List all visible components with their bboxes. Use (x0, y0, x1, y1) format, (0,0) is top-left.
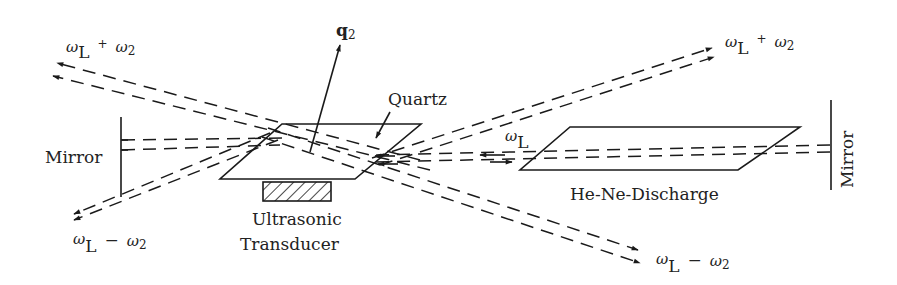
beam-upper-left (53, 63, 430, 170)
beam-label-upper-left: ωL+ω2 (66, 37, 135, 62)
transducer-label-line1: Ultrasonic (252, 209, 342, 229)
beam-label-laser: ωL (505, 127, 529, 152)
wavevector-arrow (310, 45, 340, 152)
quartz-label: Quartz (388, 89, 447, 109)
beam-label-upper-right: ωL+ω2 (725, 32, 794, 58)
beam-lower-left (74, 133, 278, 220)
quartz-pointer-arrow (376, 112, 390, 138)
transducer-label-line2: Transducer (240, 234, 340, 254)
mirror-left-label: Mirror (45, 147, 103, 167)
mirror-left (121, 117, 128, 197)
ultrasonic-transducer (263, 182, 331, 201)
mirror-right-label: Mirror (837, 130, 857, 188)
beam-label-lower-right: ωL−ω2 (656, 250, 730, 276)
discharge-label: He-Ne-Discharge (570, 184, 719, 204)
beam-label-lower-left: ωL−ω2 (73, 230, 147, 256)
diagram-canvas: q2 Quartz Mirror Mirror Ultrasonic Trans… (0, 0, 897, 285)
wavevector-label: q2 (336, 20, 356, 42)
